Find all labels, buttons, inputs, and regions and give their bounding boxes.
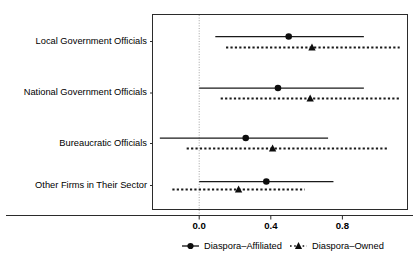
x-axis-tick-label: 0.0 bbox=[193, 220, 206, 231]
point-marker-circle bbox=[242, 135, 249, 142]
point-marker-circle bbox=[263, 178, 270, 185]
y-axis-label: Local Government Officials bbox=[36, 36, 148, 46]
x-axis-tick-label: 0.8 bbox=[336, 220, 350, 231]
point-marker-circle bbox=[285, 33, 292, 40]
y-axis-label: Bureaucratic Officials bbox=[59, 138, 147, 148]
legend-label: Diaspora–Owned bbox=[312, 241, 384, 251]
coefficient-plot-figure: Local Government OfficialsNational Gover… bbox=[0, 0, 419, 261]
legend-marker-circle bbox=[187, 243, 193, 249]
x-axis-tick-label: 0.4 bbox=[264, 220, 278, 231]
y-axis-label: National Government Officials bbox=[24, 87, 148, 97]
point-marker-circle bbox=[275, 85, 282, 92]
y-axis-label: Other Firms in Their Sector bbox=[35, 180, 147, 190]
legend-label: Diaspora–Affiliated bbox=[204, 241, 282, 251]
coefficient-plot-svg: Local Government OfficialsNational Gover… bbox=[0, 0, 419, 261]
